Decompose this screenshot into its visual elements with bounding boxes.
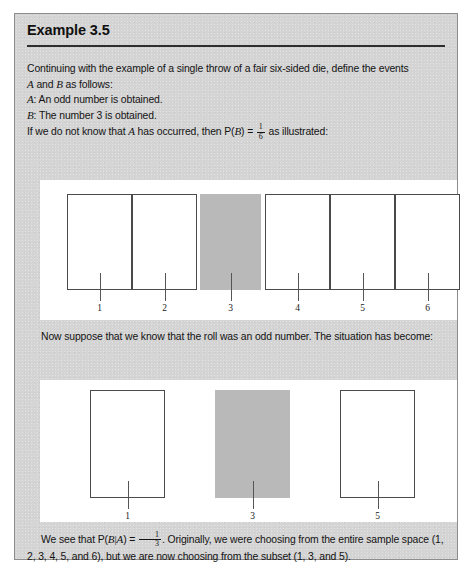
probability-fraction-one-third: 13	[139, 531, 161, 549]
outcome-label-3: 3	[243, 511, 263, 521]
tick-mark-5	[378, 481, 379, 509]
title-divider	[27, 45, 445, 47]
tick-mark-1	[128, 481, 129, 509]
tick-mark-4	[298, 273, 299, 301]
intro-line-1: Continuing with the example of a single …	[27, 61, 445, 77]
tick-mark-3	[231, 273, 232, 301]
middle-paragraph: Now suppose that we know that the roll w…	[27, 329, 445, 345]
conclusion-paragraph: We see that P(B|A) = 13. Originally, we …	[27, 531, 445, 564]
tick-mark-2	[165, 273, 166, 301]
intro-line-4: B: The number 3 is obtained.	[27, 108, 445, 124]
example-panel: Example 3.5 Continuing with the example …	[14, 13, 458, 560]
figure-conditional-sample-space: 135	[40, 380, 457, 522]
event-b-label: B	[27, 109, 34, 121]
intro-paragraph: Continuing with the example of a single …	[27, 61, 445, 141]
probability-fraction-one-sixth: 16	[257, 123, 265, 141]
tick-mark-5	[363, 273, 364, 301]
outcome-label-1: 1	[90, 303, 110, 313]
event-a-label: A	[27, 93, 34, 105]
outcome-label-1: 1	[118, 511, 138, 521]
intro-line-5: If we do not know that A has occurred, t…	[27, 123, 445, 141]
tick-mark-6	[428, 273, 429, 301]
outcome-label-4: 4	[288, 303, 308, 313]
tick-mark-3	[253, 481, 254, 509]
tick-mark-1	[100, 273, 101, 301]
page-title: Example 3.5	[27, 23, 445, 39]
example-panel-inner: Example 3.5 Continuing with the example …	[27, 23, 445, 551]
intro-line-2: A and B as follows:	[27, 77, 445, 93]
figure2-cells: 135	[40, 380, 457, 522]
outcome-label-5: 5	[368, 511, 388, 521]
outcome-label-3: 3	[221, 303, 241, 313]
outcome-label-6: 6	[418, 303, 438, 313]
figure-unconditional-sample-space: 123456	[40, 180, 457, 320]
figure1-cells: 123456	[40, 180, 457, 320]
outcome-label-5: 5	[353, 303, 373, 313]
outcome-label-2: 2	[155, 303, 175, 313]
event-a-symbol: A	[27, 78, 34, 90]
event-b-symbol: B	[56, 78, 63, 90]
intro-line-3: A: An odd number is obtained.	[27, 92, 445, 108]
